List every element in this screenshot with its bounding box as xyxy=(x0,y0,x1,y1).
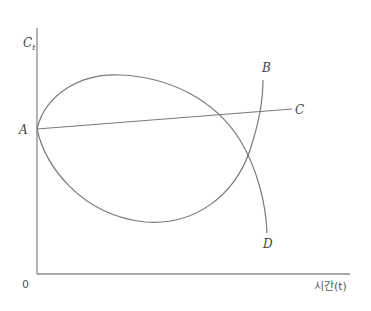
diagram-canvas: Ct A B C D 0 시간(t) xyxy=(0,0,371,311)
curve-a-to-d xyxy=(37,75,267,233)
x-axis-label: 시간(t) xyxy=(314,280,347,293)
origin-label: 0 xyxy=(22,278,29,291)
point-c-label: C xyxy=(295,103,304,117)
point-a-label: A xyxy=(18,123,28,137)
point-b-label: B xyxy=(261,61,271,75)
curve-a-to-b xyxy=(37,80,263,222)
point-d-label: D xyxy=(262,237,273,251)
line-a-to-c xyxy=(37,109,292,129)
y-axis-label: Ct xyxy=(23,36,36,52)
